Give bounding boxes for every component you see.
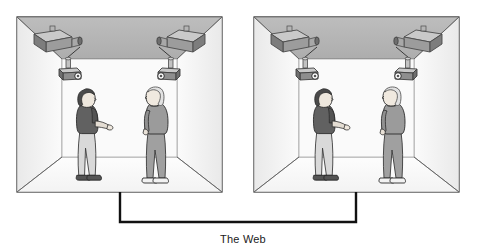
web-connector bbox=[120, 192, 356, 222]
telepresence-diagram bbox=[0, 0, 486, 249]
web-connector-path bbox=[120, 192, 356, 222]
telepresence-room-right bbox=[254, 17, 459, 192]
telepresence-room-left bbox=[17, 17, 222, 192]
web-caption: The Web bbox=[0, 233, 486, 245]
